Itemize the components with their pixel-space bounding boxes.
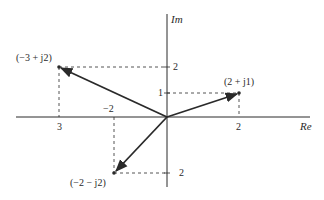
tick-label-im-pos1: 1 — [158, 87, 163, 98]
imaginary-axis-label: Im — [170, 13, 183, 25]
vector-neg3-plus-j2 — [61, 68, 167, 117]
vector-neg2-minus-j2 — [116, 117, 167, 171]
tick-label-re-neg2: −2 — [103, 103, 114, 114]
point-dot — [57, 65, 61, 69]
point-dot — [112, 171, 116, 175]
tick-label-im-pos2: 2 — [173, 61, 178, 72]
complex-plane-diagram: Im Re 3 −2 2 2 1 2 (−3 + j2) (2 + j1) (−… — [0, 0, 324, 200]
tick-label-re-pos2: 2 — [236, 121, 241, 132]
point-label-neg3-plus-j2: (−3 + j2) — [16, 52, 52, 64]
point-label-neg2-minus-j2: (−2 − j2) — [70, 177, 106, 189]
tick-label-im-neg2: 2 — [179, 167, 184, 178]
vector-2-plus-j1 — [167, 94, 237, 117]
point-dot — [237, 91, 241, 95]
tick-label-re-neg3: 3 — [57, 121, 62, 132]
real-axis-label: Re — [299, 120, 312, 132]
point-label-2-plus-j1: (2 + j1) — [224, 76, 254, 88]
